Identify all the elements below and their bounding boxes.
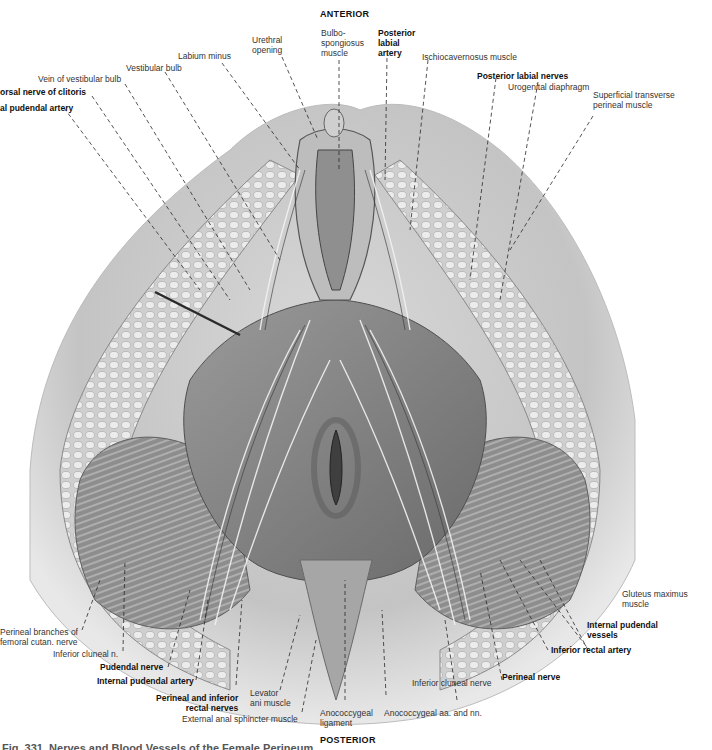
label-posterior-labial-artery: Posterior labial artery xyxy=(378,28,415,58)
label-vein-vestibular-bulb: Vein of vestibular bulb xyxy=(38,74,121,84)
label-labium-minus: Labium minus xyxy=(178,51,231,61)
figure-caption: Fig. 331. Nerves and Blood Vessels of th… xyxy=(2,741,313,750)
label-dorsal-nerve-clitoris: orsal nerve of clitoris xyxy=(0,87,86,97)
label-vestibular-bulb: Vestibular bulb xyxy=(126,63,182,73)
label-perineal-nerve: Perineal nerve xyxy=(502,672,560,682)
label-ischiocavernosus: Ischiocavernosus muscle xyxy=(422,52,517,62)
anatomical-figure: ANTERIOR POSTERIOR orsal nerve of clitor… xyxy=(0,0,712,750)
label-anococcygeal-ligament: Anococcygeal ligament xyxy=(320,708,373,728)
label-posterior-labial-nerves: Posterior labial nerves xyxy=(477,71,568,81)
label-internal-pudendal-vessels: Internal pudendal vessels xyxy=(587,620,658,640)
label-levator-ani: Levator ani muscle xyxy=(250,688,291,708)
label-internal-pudendal-artery-bottom: Internal pudendal artery xyxy=(97,676,194,686)
label-internal-pudendal-artery-top: al pudendal artery xyxy=(0,103,73,113)
orientation-anterior: ANTERIOR xyxy=(320,9,369,19)
label-superficial-transverse-perineal: Superficial transverse perineal muscle xyxy=(593,90,675,110)
orientation-posterior: POSTERIOR xyxy=(320,735,376,745)
label-external-anal-sphincter: External anal sphincter muscle xyxy=(182,714,298,724)
label-anococcygeal-aa-nn: Anococcygeal aa. and nn. xyxy=(384,708,482,718)
label-inferior-cluneal-n-left: Inferior cluneal n. xyxy=(53,649,118,659)
label-pudendal-nerve: Pudendal nerve xyxy=(100,662,163,672)
label-inferior-cluneal-nerve-right: Inferior cluneal nerve xyxy=(412,678,491,688)
label-urethral-opening: Urethral opening xyxy=(252,35,282,55)
label-perineal-inferior-rectal-nerves: Perineal and inferior rectal nerves xyxy=(156,693,238,713)
label-gluteus-maximus: Gluteus maximus muscle xyxy=(622,589,688,609)
label-inferior-rectal-artery: Inferior rectal artery xyxy=(551,645,631,655)
label-bulbospongiosus: Bulbo- spongiosus muscle xyxy=(321,28,364,58)
label-urogenital-diaphragm: Urogenital diaphragm xyxy=(508,82,589,92)
label-perineal-branches-femoral-cutan: Perineal branches of femoral cutan. nerv… xyxy=(0,627,78,647)
